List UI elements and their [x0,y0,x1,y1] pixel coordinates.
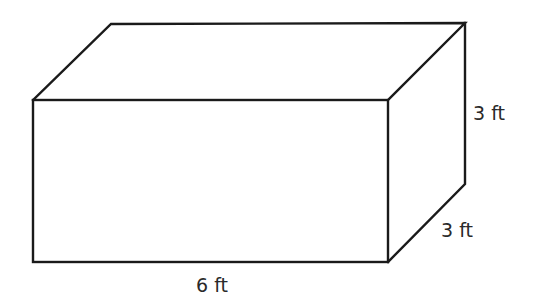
front-face [33,100,388,262]
height-label: 3 ft [473,102,505,124]
length-label: 6 ft [196,274,228,296]
top-face [33,23,465,100]
rectangular-prism-diagram: 3 ft 3 ft 6 ft [0,0,535,306]
depth-label: 3 ft [441,219,473,241]
